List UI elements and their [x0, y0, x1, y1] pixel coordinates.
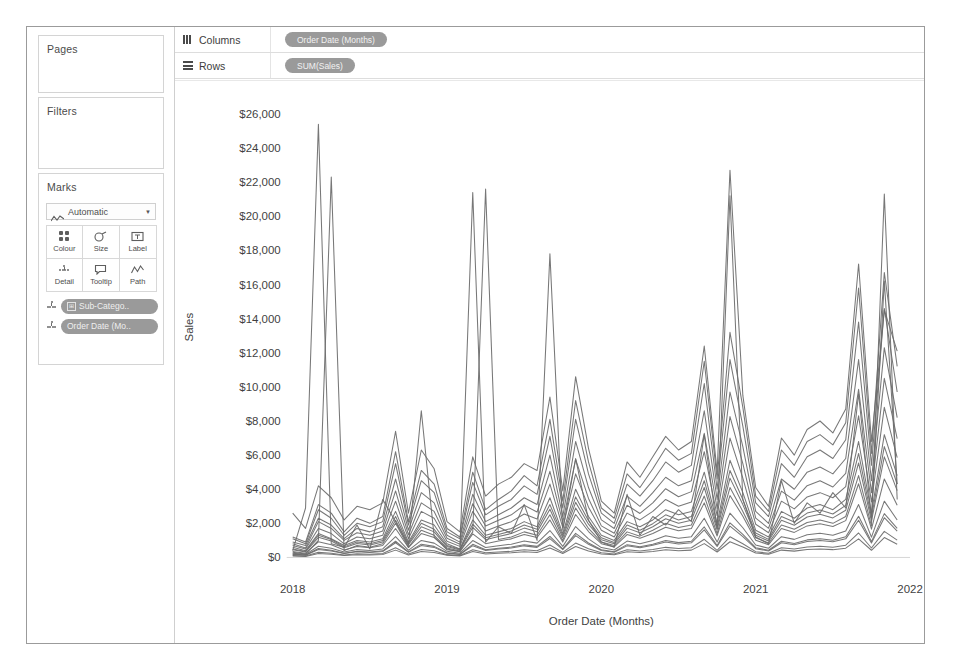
marks-button-colour[interactable]: Colour [46, 225, 84, 259]
rows-shelf-name: Rows [175, 53, 271, 78]
mark-type-dropdown[interactable]: Automatic ▼ [46, 203, 156, 220]
x-axis-tick-label: 2020 [589, 583, 614, 595]
pages-card[interactable]: Pages [38, 35, 164, 93]
marks-button-tooltip-label: Tooltip [90, 278, 112, 286]
detail-dots-icon [46, 321, 57, 332]
columns-shelf[interactable]: Columns Order Date (Months) [175, 27, 924, 53]
y-axis-tick-label: $14,000 [239, 313, 280, 325]
filters-card-title: Filters [39, 98, 163, 117]
y-axis-tick-label: $24,000 [239, 142, 280, 154]
expand-plus-icon[interactable]: ⊞ [67, 302, 76, 311]
y-axis-tick-label: $22,000 [239, 176, 280, 188]
columns-icon [183, 35, 193, 44]
marks-card-title: Marks [39, 174, 163, 193]
marks-button-label-label: Label [128, 245, 146, 253]
chart-canvas[interactable]: $0$2,000$4,000$6,000$8,000$10,000$12,000… [175, 80, 924, 643]
rows-shelf-pill[interactable]: SUM(Sales) [285, 58, 355, 73]
marks-button-path-label: Path [130, 278, 145, 286]
line-wave-icon [51, 208, 64, 215]
tableau-worksheet-frame: Pages Filters Marks Automatic ▼ Colour [26, 26, 925, 644]
marks-button-size-label: Size [94, 245, 109, 253]
y-axis-tick-label: $10,000 [239, 381, 280, 393]
y-axis-tick-label: $2,000 [246, 517, 281, 529]
marks-pill-sub-category[interactable]: ⊞ Sub-Catego.. [61, 299, 158, 314]
marks-pill-sub-category-label: Sub-Catego.. [79, 301, 129, 311]
marks-button-label[interactable]: Label [119, 225, 157, 259]
marks-card[interactable]: Marks Automatic ▼ Colour [38, 173, 164, 365]
size-icon [94, 230, 107, 243]
marks-button-path[interactable]: Path [119, 258, 157, 292]
marks-button-tooltip[interactable]: Tooltip [82, 258, 120, 292]
marks-button-detail[interactable]: Detail [46, 258, 84, 292]
columns-shelf-label: Columns [199, 34, 240, 46]
y-axis-tick-label: $20,000 [239, 210, 280, 222]
marks-pill-order-date-label: Order Date (Mo.. [67, 321, 131, 331]
rows-icon [183, 61, 193, 70]
x-axis-tick-label: 2022 [897, 583, 922, 595]
marks-pill-order-date[interactable]: Order Date (Mo.. [61, 319, 158, 334]
y-axis-title: Sales [183, 313, 195, 342]
y-axis-tick-label: $26,000 [239, 108, 280, 120]
detail-dots-icon [59, 263, 70, 276]
sales-by-month-line-chart: $0$2,000$4,000$6,000$8,000$10,000$12,000… [175, 81, 924, 643]
series-line [293, 170, 897, 532]
marks-pill-row-sub-category[interactable]: ⊞ Sub-Catego.. [46, 298, 158, 314]
rows-shelf[interactable]: Rows SUM(Sales) [175, 53, 924, 79]
y-axis-tick-label: $6,000 [246, 449, 281, 461]
marks-button-grid: Colour Size Label [46, 225, 156, 291]
marks-button-colour-label: Colour [53, 245, 75, 253]
filters-card[interactable]: Filters [38, 97, 164, 169]
viz-panel: Columns Order Date (Months) Rows SUM(Sal… [175, 27, 924, 643]
y-axis-tick-label: $18,000 [239, 244, 280, 256]
x-axis-title: Order Date (Months) [549, 615, 654, 627]
colour-swatches-icon [59, 230, 70, 243]
chevron-down-icon[interactable]: ▼ [145, 209, 151, 215]
pages-card-title: Pages [39, 36, 163, 55]
y-axis-tick-label: $16,000 [239, 279, 280, 291]
series-line [293, 124, 897, 551]
x-axis-tick-label: 2019 [434, 583, 459, 595]
x-axis-tick-label: 2018 [280, 583, 305, 595]
y-axis-tick-label: $0 [268, 551, 281, 563]
columns-shelf-name: Columns [175, 27, 271, 52]
path-wave-icon [131, 263, 144, 276]
columns-shelf-pill[interactable]: Order Date (Months) [285, 32, 387, 47]
x-axis-tick-label: 2021 [743, 583, 768, 595]
y-axis-tick-label: $4,000 [246, 483, 281, 495]
mark-type-value: Automatic [68, 207, 141, 217]
label-icon [131, 230, 144, 243]
left-shelf-panel: Pages Filters Marks Automatic ▼ Colour [27, 27, 175, 643]
rows-shelf-label: Rows [199, 60, 225, 72]
marks-button-size[interactable]: Size [82, 225, 120, 259]
detail-dots-icon [46, 301, 57, 312]
y-axis-tick-label: $8,000 [246, 415, 281, 427]
y-axis-tick-label: $12,000 [239, 347, 280, 359]
marks-pill-row-order-date[interactable]: Order Date (Mo.. [46, 318, 158, 334]
tooltip-icon [94, 263, 107, 276]
marks-button-detail-label: Detail [55, 278, 74, 286]
